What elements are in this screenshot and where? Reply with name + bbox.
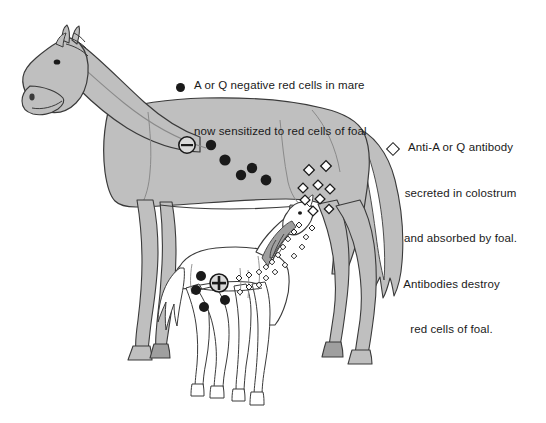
filled-red-cell-marker-icon [176,79,190,94]
mare-front-hoof-far [150,344,170,358]
foal-red-cell-dot [191,285,201,295]
callout-foal-text-2: secreted in colostrum [404,186,517,201]
mare-front-hoof-near [128,346,152,360]
foal-antibody-diamond [291,253,297,259]
callout-mare-line-1: A or Q negative red cells in mare [176,78,367,93]
callout-mare-line-2: now sensitized to red cells of foal [176,124,367,139]
foal-hind-hoof-far [191,384,204,396]
foal-red-cell-dot [196,271,206,281]
callout-foal-line-4: Antibodies destroy [386,277,517,292]
foal-antibody-diamond [299,244,305,250]
foal-red-cell-dot [220,295,230,305]
mare-hind-hoof-far [322,342,343,357]
mare-front-leg-near [136,200,158,350]
foal-red-cell-dot [199,302,209,312]
callout-foal-line-5: red cells of foal. [386,322,517,337]
callout-foal-text-3: and absorbed by foal. [404,231,517,246]
callout-mare: A or Q negative red cells in mare now se… [176,48,367,169]
callout-foal-text-1: Anti-A or Q antibody [404,140,517,155]
positive-sign-badge [210,274,228,292]
mare-eye [54,59,61,64]
foal-front-leg-far [234,284,251,393]
callout-foal: Anti-A or Q antibody secreted in colostr… [386,110,517,368]
callout-mare-text-2: now sensitized to red cells of foal [194,124,367,139]
mare-hind-hoof-near [348,350,372,364]
foal-front-leg-near [252,282,270,396]
mare-red-cell-dot [261,175,272,186]
open-antibody-marker-icon [386,141,400,156]
foal-figure [158,195,313,405]
foal-hind-hoof-near [210,386,224,398]
foal-eye [298,211,302,214]
mare-nostril [29,94,34,101]
callout-foal-line-1: Anti-A or Q antibody [386,140,517,155]
callout-mare-text-1: A or Q negative red cells in mare [194,78,367,93]
callout-foal-line-3: and absorbed by foal. [386,231,517,246]
mare-belly-line [160,205,300,209]
foal-front-hoof-near [250,392,264,405]
foal-antibody-diamond [303,234,309,240]
figure-canvas: A or Q negative red cells in mare now se… [0,0,546,423]
foal-antibody-diamond [309,225,315,231]
foal-front-hoof-far [232,389,245,401]
callout-foal-line-2: secreted in colostrum [386,186,517,201]
mare-red-cell-dot [236,170,246,180]
